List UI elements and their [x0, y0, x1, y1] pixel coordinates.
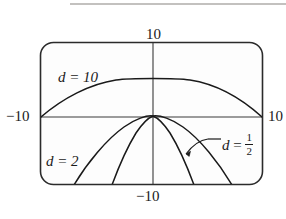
figure-page: 10 −10 −10 10 d = 10 d = 2 d = 12 — [0, 0, 286, 219]
curve-annotation-d-2: d = 2 — [46, 154, 79, 169]
curve-annotation-d-10: d = 10 — [58, 70, 98, 85]
axis-label-bottom: −10 — [136, 189, 159, 204]
axis-label-right: 10 — [268, 109, 283, 124]
curve-annotation-d-half-var: d — [222, 137, 230, 153]
curve-annotation-d-10-text: d = 10 — [58, 69, 98, 85]
plot-canvas — [0, 0, 286, 219]
curve-annotation-d-2-text: d = 2 — [46, 153, 79, 169]
fraction-denominator: 2 — [245, 146, 253, 158]
fraction-numerator: 1 — [245, 132, 253, 144]
curve-annotation-d-half: d = 12 — [222, 132, 253, 158]
graphing-calculator-figure: 10 −10 −10 10 d = 10 d = 2 d = 12 — [0, 0, 286, 219]
axis-label-top: 10 — [146, 27, 161, 42]
curve-annotation-d-half-equals: = — [233, 137, 241, 153]
axis-label-left: −10 — [6, 109, 29, 124]
curve-annotation-d-half-fraction: 12 — [245, 132, 253, 158]
